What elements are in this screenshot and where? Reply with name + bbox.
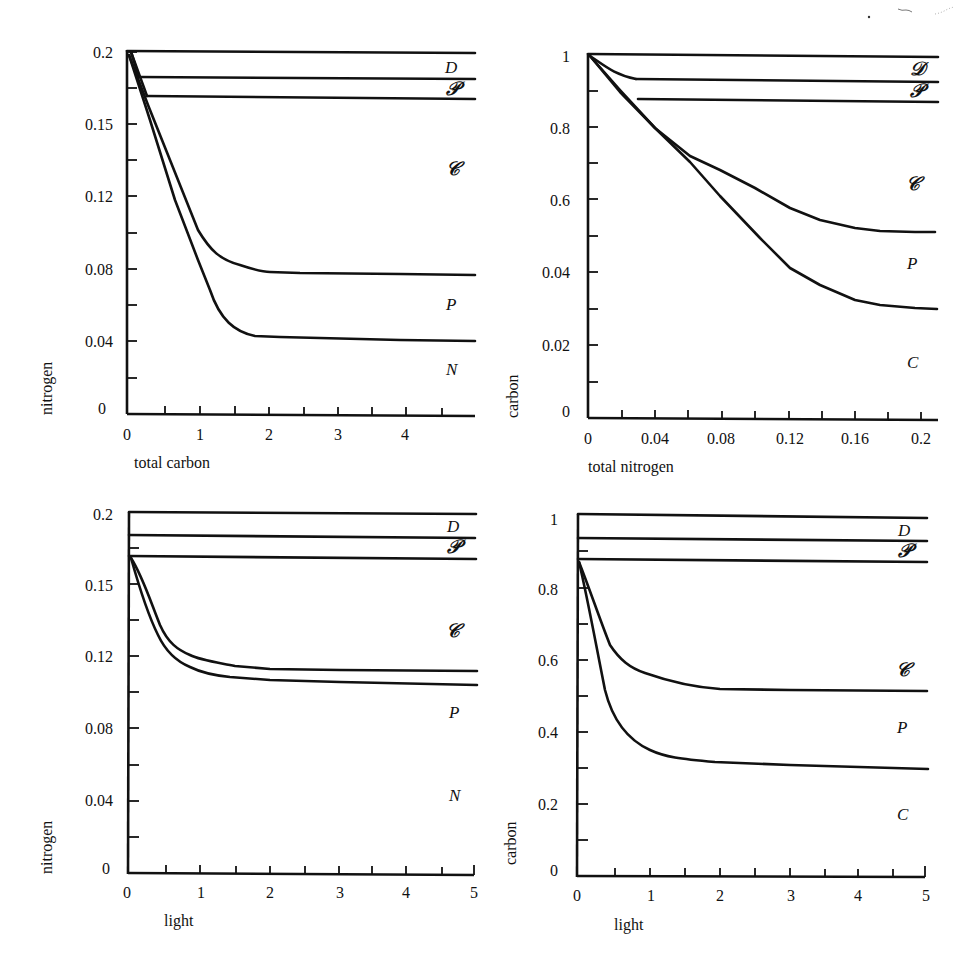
y-tick-label: 0.08 [85, 261, 113, 278]
x-tick-label: 3 [336, 884, 344, 901]
y-tick-label: 1 [550, 511, 558, 528]
x-tick-label: 0.08 [707, 430, 735, 447]
boundary-line-p-c [129, 556, 476, 559]
boundary-line-top [127, 51, 475, 53]
x-tick-label: 1 [196, 426, 204, 443]
region-label-p: P [448, 703, 459, 722]
scan-artifacts [868, 7, 954, 18]
y-tick-label: 0.2 [93, 506, 113, 523]
y-tick-label: 0.08 [85, 720, 113, 737]
y-tick-label: 0.8 [538, 581, 558, 598]
x-axis [128, 873, 474, 875]
y-tick-label: 0.8 [550, 120, 570, 137]
y-tick-label: 0.12 [85, 188, 113, 205]
y-axis-label: nitrogen [38, 821, 56, 874]
region-label-p: P [445, 295, 456, 314]
x-axis-label: total carbon [134, 454, 210, 471]
x-tick-label: 0.2 [911, 430, 931, 447]
y-tick-label: 0 [98, 400, 106, 417]
x-axis [577, 876, 925, 877]
region-label-c: C [907, 353, 919, 372]
x-tick-label: 0.12 [776, 430, 804, 447]
x-tick-label: 1 [647, 887, 655, 904]
x-tick-label: 5 [470, 884, 478, 901]
boundary-line-d-p [139, 77, 475, 79]
y-tick-label: 0.04 [85, 333, 113, 350]
boundary-line-d-p [129, 535, 475, 538]
x-tick-label: 4 [402, 884, 410, 901]
upper-curve [579, 562, 927, 691]
chart-bottom-left: 0.2 0.15 0.12 0.08 0.04 0 0 1 2 3 4 5 li… [38, 506, 478, 930]
x-axis-label: light [164, 912, 194, 930]
y-ticks [127, 52, 137, 378]
y-tick-label: 0 [102, 860, 110, 877]
region-label-n: N [445, 360, 459, 379]
x-tick-label: 3 [334, 426, 342, 443]
boundary-line-p-c [578, 559, 927, 562]
boundary-line-top [578, 514, 927, 518]
region-label-n: N [448, 786, 462, 805]
x-tick-label: 2 [266, 884, 274, 901]
region-label-p: P [896, 718, 907, 737]
x-axis [588, 418, 938, 420]
y-axis-label: carbon [504, 374, 521, 418]
y-ticks [129, 548, 139, 837]
boundary-line-top [588, 54, 938, 57]
x-tick-label: 4 [854, 887, 862, 904]
region-label-c-script: 𝒞 [906, 172, 925, 194]
region-label-c-script: 𝒞 [446, 619, 465, 641]
region-label-p-script: 𝒫 [897, 539, 917, 561]
chart-top-right: 1 0.8 0.6 0.04 0.02 0 0 0.04 0.08 0.12 0… [504, 48, 938, 476]
boundary-line-top [129, 512, 476, 514]
x-tick-label: 0 [573, 887, 581, 904]
x-tick-label: 3 [787, 887, 795, 904]
upper-curve [131, 558, 477, 671]
region-label-c-script: 𝒞 [446, 157, 465, 179]
y-ticks [588, 91, 598, 382]
region-label-d: D [446, 517, 460, 536]
x-tick-label: 2 [716, 887, 724, 904]
upper-curve [129, 55, 475, 275]
region-label-d-script: 𝒟 [910, 57, 929, 79]
y-tick-label: 0.04 [542, 264, 570, 281]
x-tick-label: 0 [123, 426, 131, 443]
figure-canvas: 0.2 0.15 0.12 0.08 0.04 0 0 1 2 3 4 tota… [0, 0, 975, 975]
boundary-line-d-p [636, 79, 938, 82]
region-label-d: D [897, 521, 911, 540]
short-curve [590, 56, 636, 79]
x-tick-label: 0 [123, 884, 131, 901]
region-label-d: D [444, 58, 458, 77]
y-tick-label: 0.2 [93, 44, 113, 61]
boundary-line-p-c [638, 99, 938, 102]
y-tick-label: 0.12 [85, 648, 113, 665]
x-tick-label: 0.04 [641, 430, 669, 447]
y-tick-label: 0.4 [538, 724, 558, 741]
y-tick-label: 0.02 [542, 337, 570, 354]
y-tick-label: 1 [562, 48, 570, 65]
region-label-c-script: 𝒞 [896, 658, 915, 680]
chart-bottom-right: 1 0.8 0.6 0.4 0.2 0 0 1 2 3 4 5 light ca… [502, 511, 930, 934]
x-tick-label: 1 [197, 884, 205, 901]
x-axis-label: total nitrogen [588, 458, 674, 476]
y-axis-label: carbon [502, 821, 519, 865]
x-axis [127, 414, 475, 416]
y-tick-label: 0.04 [85, 792, 113, 809]
y-axis [577, 514, 578, 877]
chart-top-left: 0.2 0.15 0.12 0.08 0.04 0 0 1 2 3 4 tota… [38, 44, 475, 471]
y-axis-label: nitrogen [38, 362, 56, 415]
lower-curve [131, 558, 477, 685]
y-tick-label: 0 [562, 403, 570, 420]
x-tick-label: 4 [401, 426, 409, 443]
y-tick-label: 0.15 [85, 116, 113, 133]
x-tick-label: 2 [265, 426, 273, 443]
region-label-p: P [906, 254, 917, 273]
boundary-line-p-c [147, 96, 475, 99]
x-tick-label: 0 [584, 430, 592, 447]
x-tick-label: 0.16 [841, 430, 869, 447]
boundary-line-d-p [578, 538, 927, 541]
lower-curve [590, 56, 937, 309]
y-tick-label: 0 [550, 862, 558, 879]
y-tick-label: 0.6 [550, 192, 570, 209]
y-tick-label: 0.15 [85, 577, 113, 594]
y-axis [128, 512, 129, 874]
